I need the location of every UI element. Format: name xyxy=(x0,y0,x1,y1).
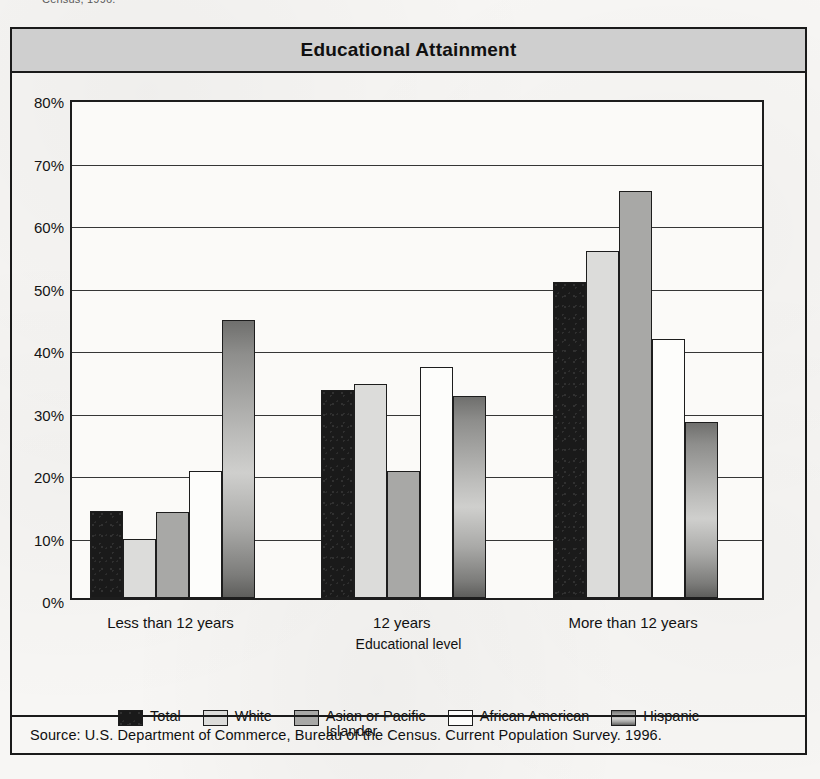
x-axis-title: Educational level xyxy=(12,636,805,652)
y-axis-tick-label: 40% xyxy=(34,344,64,361)
bar xyxy=(652,339,685,598)
chart-frame: Educational Attainment 0%10%20%30%40%50%… xyxy=(10,27,807,755)
bar xyxy=(685,422,718,598)
gridline xyxy=(72,290,762,291)
y-axis-tick-label: 0% xyxy=(42,594,64,611)
bar xyxy=(354,384,387,598)
y-axis-tick-label: 60% xyxy=(34,219,64,236)
bar xyxy=(222,320,255,598)
gridline xyxy=(72,227,762,228)
bar xyxy=(90,511,123,599)
bar xyxy=(553,282,586,598)
y-axis-tick-label: 80% xyxy=(34,94,64,111)
clipped-top-text: Census, 1996. xyxy=(42,0,192,5)
plot-region: 0%10%20%30%40%50%60%70%80% Less than 12 … xyxy=(12,73,805,719)
x-axis-group-label: Less than 12 years xyxy=(107,614,234,631)
y-axis-tick-label: 50% xyxy=(34,281,64,298)
source-band: Source: U.S. Department of Commerce, Bur… xyxy=(12,715,805,753)
y-axis-tick-label: 20% xyxy=(34,469,64,486)
page-title: Educational Attainment xyxy=(301,39,517,61)
source-note: Source: U.S. Department of Commerce, Bur… xyxy=(30,727,662,743)
bar xyxy=(586,251,619,599)
bar xyxy=(387,471,420,598)
bar xyxy=(321,390,354,598)
x-axis-group-label: More than 12 years xyxy=(569,614,698,631)
bar xyxy=(123,539,156,598)
bar xyxy=(420,367,453,598)
gridline xyxy=(72,165,762,166)
scanned-page: Census, 1996. Educational Attainment 0%1… xyxy=(0,0,820,779)
y-axis-tick-label: 10% xyxy=(34,531,64,548)
bar xyxy=(189,471,222,598)
y-axis-tick-label: 30% xyxy=(34,406,64,423)
y-axis-tick-label: 70% xyxy=(34,156,64,173)
plot-area: 0%10%20%30%40%50%60%70%80% xyxy=(70,100,764,600)
bar xyxy=(619,191,652,599)
bar xyxy=(156,512,189,598)
bar xyxy=(453,396,486,598)
x-axis-group-label: 12 years xyxy=(373,614,431,631)
chart-title-band: Educational Attainment xyxy=(12,29,805,73)
